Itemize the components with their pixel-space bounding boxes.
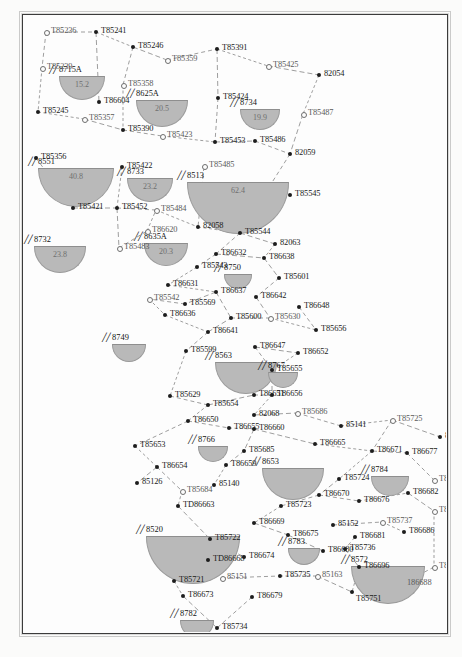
half-disc-label-text: 8766 bbox=[196, 435, 215, 444]
node-dot-icon bbox=[242, 449, 246, 453]
half-disc-label: ╱╱ 8520 bbox=[136, 525, 163, 534]
node-dot-icon bbox=[266, 64, 272, 70]
link-line bbox=[216, 292, 231, 318]
half-disc-shape bbox=[268, 372, 298, 388]
node-dot-icon bbox=[370, 449, 374, 453]
node-dot-icon bbox=[34, 156, 38, 160]
node-label: T86681 bbox=[360, 531, 385, 540]
node-dot-icon bbox=[331, 523, 335, 527]
node-label: T86671 bbox=[377, 445, 402, 454]
half-disc-shape: 23.2 bbox=[127, 178, 173, 202]
node-label: T85239 bbox=[47, 62, 72, 71]
node-label: T85246 bbox=[138, 41, 163, 50]
node-label: T85601 bbox=[284, 272, 309, 281]
node-label: T85453 bbox=[220, 136, 245, 145]
node-label: T85357 bbox=[89, 113, 114, 122]
node-label: T85241 bbox=[101, 26, 126, 35]
node-label: T85423 bbox=[167, 130, 192, 139]
node-label: T86604 bbox=[104, 96, 129, 105]
node-label: 82068 bbox=[259, 409, 279, 418]
half-disc-label-text: 8783 bbox=[286, 537, 305, 546]
half-disc-symbol: ╱╱ 8653 bbox=[262, 468, 324, 500]
node-dot-icon bbox=[350, 590, 354, 594]
node-dot-icon bbox=[406, 491, 410, 495]
node-dot-icon bbox=[278, 574, 282, 578]
node-label: T85685 bbox=[249, 445, 274, 454]
hatch-marker-icon: ╱╱ bbox=[188, 435, 196, 444]
node-label: T85390 bbox=[128, 124, 153, 133]
node-dot-icon bbox=[262, 256, 266, 260]
node-dot-icon bbox=[253, 139, 257, 143]
node-dot-icon bbox=[432, 509, 438, 515]
node-label: T85653 bbox=[140, 440, 165, 449]
node-dot-icon bbox=[301, 112, 307, 118]
node-dot-icon bbox=[121, 83, 127, 89]
half-disc-shape bbox=[112, 344, 146, 362]
link-line bbox=[178, 506, 210, 539]
node-label: T85484 bbox=[161, 204, 186, 213]
node-dot-icon bbox=[213, 140, 217, 144]
node-label: 82059 bbox=[295, 148, 315, 157]
node-label: T85737 bbox=[387, 516, 412, 525]
node-label: T86677 bbox=[412, 447, 437, 456]
node-dot-icon bbox=[155, 465, 159, 469]
half-disc-label: ╱╱ 8783 bbox=[278, 537, 305, 546]
node-label: T85487 bbox=[308, 108, 333, 117]
half-disc-shape bbox=[371, 476, 409, 496]
link-line bbox=[407, 453, 434, 480]
node-dot-icon bbox=[168, 394, 172, 398]
half-disc-label: ╱╱ 8782 bbox=[170, 609, 197, 618]
node-dot-icon bbox=[97, 100, 101, 104]
half-disc-label-text: 8782 bbox=[178, 609, 197, 618]
node-label: T86641 bbox=[213, 326, 238, 335]
node-dot-icon bbox=[206, 558, 210, 562]
node-dot-icon bbox=[208, 537, 212, 541]
half-disc-label: ╱╱ 8766 bbox=[188, 435, 215, 444]
node-label: T85686 bbox=[302, 407, 327, 416]
node-dot-icon bbox=[120, 165, 124, 169]
node-label: 82054 bbox=[324, 69, 344, 78]
node-dot-icon bbox=[238, 231, 242, 235]
figure-page: 15.2╱╱ 8715A20.5╱╱ 8625A19.9╱╱ 873440.8╱… bbox=[0, 0, 462, 657]
node-dot-icon bbox=[270, 368, 274, 372]
half-disc-label-text: 8784 bbox=[369, 465, 388, 474]
node-dot-icon bbox=[82, 117, 88, 123]
node-dot-icon bbox=[337, 477, 341, 481]
node-dot-icon bbox=[317, 73, 321, 77]
node-label: T86631 bbox=[173, 279, 198, 288]
half-disc-value: 23.8 bbox=[35, 250, 85, 259]
node-label: T86642 bbox=[261, 291, 286, 300]
node-dot-icon bbox=[220, 576, 226, 582]
node-label: T86669 bbox=[259, 517, 284, 526]
half-disc-label: ╱╱ 8513 bbox=[177, 171, 204, 180]
node-label: T85654 bbox=[213, 399, 238, 408]
node-dot-icon bbox=[321, 549, 325, 553]
half-disc-shape: 19.9 bbox=[240, 109, 280, 130]
node-dot-icon bbox=[297, 305, 301, 309]
node-dot-icon bbox=[252, 393, 256, 397]
node-label: T86636 bbox=[170, 309, 195, 318]
node-label: T86655 bbox=[234, 422, 259, 431]
node-dot-icon bbox=[254, 295, 258, 299]
node-label: T85735 bbox=[285, 570, 310, 579]
half-disc-symbol: ╱╱ 8782 bbox=[180, 620, 214, 632]
node-label: T86679 bbox=[257, 591, 282, 600]
node-dot-icon bbox=[343, 547, 347, 551]
link-line bbox=[264, 258, 279, 278]
half-disc-label-text: 8749 bbox=[110, 333, 129, 342]
node-dot-icon bbox=[154, 208, 160, 214]
node-label: T85391 bbox=[222, 43, 247, 52]
half-disc-value: 23.2 bbox=[128, 182, 172, 191]
node-label: T85483 bbox=[124, 242, 149, 251]
node-label: T85629 bbox=[175, 390, 200, 399]
node-dot-icon bbox=[117, 246, 123, 252]
node-dot-icon bbox=[176, 504, 180, 508]
half-disc-label: ╱╱ 8749 bbox=[102, 333, 129, 342]
node-label: T85752 bbox=[439, 561, 446, 570]
half-disc-shape: 15.2 bbox=[59, 76, 105, 100]
node-dot-icon bbox=[147, 297, 153, 303]
node-label: T85745 bbox=[439, 505, 446, 514]
half-disc-value: 40.8 bbox=[39, 172, 113, 181]
hatch-marker-icon: ╱╱ bbox=[170, 609, 178, 618]
half-disc-value: 62.4 bbox=[188, 186, 288, 195]
